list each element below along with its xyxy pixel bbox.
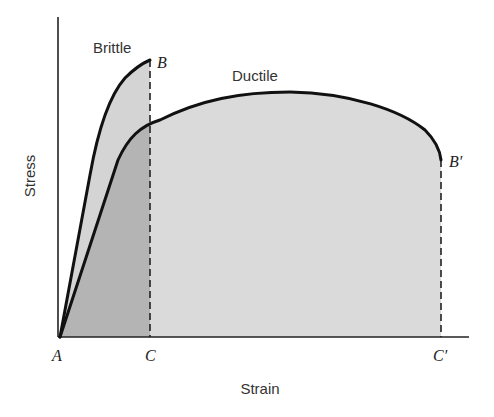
point-c-label: C	[145, 347, 156, 364]
point-b-prime-label: B′	[449, 153, 463, 170]
point-a-label: A	[51, 347, 62, 364]
point-b-label: B	[157, 54, 167, 71]
point-c-prime-label: C′	[433, 347, 448, 364]
y-axis-title: Stress	[21, 155, 38, 198]
ductile-label: Ductile	[232, 67, 278, 84]
x-axis-title: Strain	[240, 380, 279, 397]
brittle-label: Brittle	[93, 39, 131, 56]
stress-strain-diagram: Brittle Ductile B B′ A C C′ Strain Stres…	[0, 0, 494, 417]
